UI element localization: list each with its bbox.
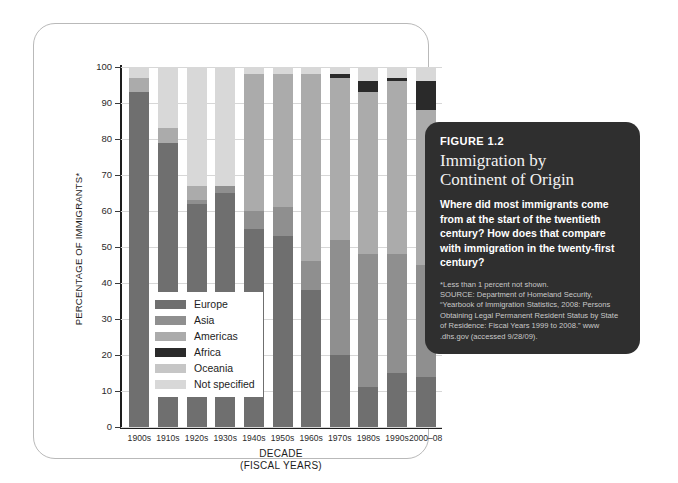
y-tick-label: 50	[101, 242, 112, 252]
bar-1960s[interactable]	[301, 67, 321, 427]
legend-item-africa[interactable]: Africa	[155, 344, 255, 360]
y-axis-tick	[115, 139, 121, 140]
y-axis-tick	[115, 283, 121, 284]
y-tick-label: 40	[101, 278, 112, 288]
bar-1970s[interactable]	[330, 67, 350, 427]
x-tick-label: 1970s	[328, 433, 351, 443]
bar-segment-asia	[387, 254, 407, 373]
bar-1990s[interactable]	[387, 67, 407, 427]
y-tick-label: 30	[101, 314, 112, 324]
bar-segment-not-specified	[273, 67, 293, 74]
figure-title-line1: Immigration by	[440, 151, 625, 170]
bar-segment-not-specified	[129, 67, 149, 78]
bar-segment-africa	[330, 74, 350, 78]
legend-item-asia[interactable]: Asia	[155, 312, 255, 328]
x-tick-label: 1960s	[299, 433, 322, 443]
y-tick-label: 60	[101, 206, 112, 216]
bar-segment-americas	[273, 74, 293, 207]
y-axis-tick	[115, 67, 121, 68]
y-axis-tick	[115, 391, 121, 392]
bar-segment-europe	[129, 92, 149, 427]
legend-item-not-specified[interactable]: Not specified	[155, 376, 255, 392]
x-tick-label: 1910s	[156, 433, 179, 443]
figure-caption-card: FIGURE 1.2 Immigration by Continent of O…	[425, 122, 640, 354]
legend-swatch	[155, 300, 186, 309]
bar-segment-europe	[416, 377, 436, 427]
gridline	[121, 427, 442, 428]
bar-segment-americas	[244, 74, 264, 211]
chart-panel: PERCENTAGE OF IMMIGRANTS* 01020304050607…	[33, 23, 429, 459]
bar-segment-americas	[387, 81, 407, 254]
bar-segment-not-specified	[301, 67, 321, 74]
bar-segment-africa	[358, 81, 378, 92]
x-tick-label: 1950s	[271, 433, 294, 443]
legend-label: Not specified	[194, 379, 255, 390]
y-axis-tick	[115, 175, 121, 176]
bar-segment-not-specified	[244, 67, 264, 74]
x-axis-title-sub: (FISCAL YEARS)	[240, 460, 322, 472]
legend-swatch	[155, 316, 186, 325]
x-axis-title-main: DECADE	[240, 448, 322, 460]
legend-swatch	[155, 380, 186, 389]
bar-segment-europe	[358, 387, 378, 427]
x-tick-label: 1920s	[185, 433, 208, 443]
x-axis-title: DECADE (FISCAL YEARS)	[240, 448, 322, 472]
y-axis-tick	[115, 211, 121, 212]
legend-label: Europe	[194, 299, 228, 310]
y-tick-label: 10	[101, 386, 112, 396]
y-axis-tick	[115, 247, 121, 248]
legend-label: Africa	[194, 347, 221, 358]
bar-segment-not-specified	[215, 67, 235, 186]
x-tick-label: 1940s	[242, 433, 265, 443]
x-tick-label: 1990s	[385, 433, 408, 443]
bar-segment-asia	[215, 186, 235, 193]
x-tick-label: 2000–08	[409, 433, 442, 443]
legend-swatch	[155, 364, 186, 373]
bar-1900s[interactable]	[129, 67, 149, 427]
bar-segment-asia	[244, 211, 264, 229]
bar-segment-europe	[301, 290, 321, 427]
bar-segment-africa	[416, 81, 436, 110]
y-axis-tick	[115, 427, 121, 428]
y-axis-tick	[115, 355, 121, 356]
bar-segment-asia	[273, 207, 293, 236]
y-tick-label: 90	[101, 98, 112, 108]
bar-segment-asia	[358, 254, 378, 387]
y-tick-label: 80	[101, 134, 112, 144]
figure-title-line2: Continent of Origin	[440, 170, 625, 189]
bar-segment-africa	[387, 78, 407, 82]
bar-segment-americas	[158, 128, 178, 142]
bar-segment-not-specified	[158, 67, 178, 128]
legend-item-oceania[interactable]: Oceania	[155, 360, 255, 376]
y-tick-label: 100	[96, 62, 112, 72]
figure-source: SOURCE: Department of Homeland Security,…	[440, 290, 625, 342]
legend-swatch	[155, 332, 186, 341]
chart-legend: EuropeAsiaAmericasAfricaOceaniaNot speci…	[149, 292, 263, 397]
bar-segment-americas	[330, 78, 350, 240]
bar-segment-americas	[187, 186, 207, 200]
y-axis-tick	[115, 319, 121, 320]
y-tick-label: 20	[101, 350, 112, 360]
bar-1950s[interactable]	[273, 67, 293, 427]
legend-label: Oceania	[194, 363, 233, 374]
bar-1980s[interactable]	[358, 67, 378, 427]
legend-item-europe[interactable]: Europe	[155, 296, 255, 312]
legend-item-americas[interactable]: Americas	[155, 328, 255, 344]
bar-segment-asia	[301, 261, 321, 290]
bar-segment-europe	[273, 236, 293, 427]
bar-segment-americas	[358, 92, 378, 254]
figure-title: Immigration by Continent of Origin	[440, 151, 625, 189]
y-tick-label: 0	[107, 422, 112, 432]
bar-segment-not-specified	[358, 67, 378, 81]
legend-swatch	[155, 348, 186, 357]
bar-segment-not-specified	[387, 67, 407, 78]
bar-segment-not-specified	[416, 67, 436, 81]
y-axis-title: PERCENTAGE OF IMMIGRANTS*	[73, 173, 84, 326]
bar-segment-asia	[330, 240, 350, 355]
y-axis-tick	[115, 103, 121, 104]
bar-segment-not-specified	[330, 67, 350, 74]
x-tick-label: 1900s	[128, 433, 151, 443]
bar-segment-asia	[187, 200, 207, 204]
legend-label: Asia	[194, 315, 214, 326]
bar-segment-americas	[129, 78, 149, 92]
